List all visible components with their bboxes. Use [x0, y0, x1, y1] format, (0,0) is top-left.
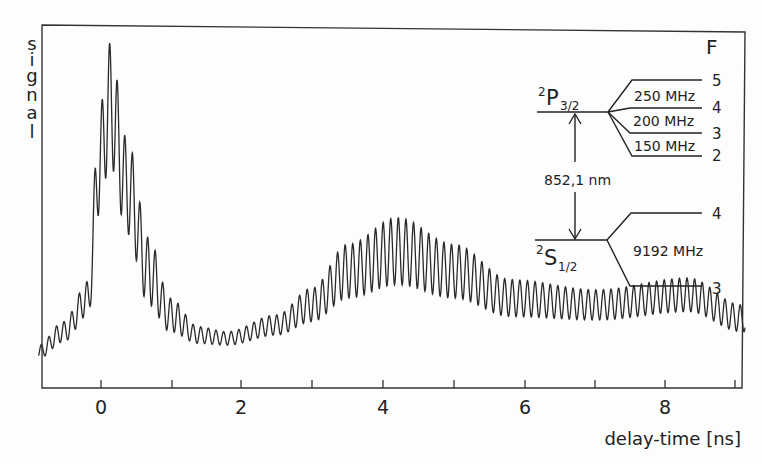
x-axis-label: delay-time [ns]: [604, 428, 741, 449]
svg-text:g: g: [26, 65, 37, 86]
x-ticks: [101, 380, 735, 388]
wavelength-label: 852,1 nm: [544, 172, 611, 188]
lower-f-4: 4: [712, 205, 722, 223]
svg-text:a: a: [26, 102, 37, 123]
p-state-superscript: 2: [538, 85, 546, 99]
upper-f-4: 4: [712, 99, 722, 117]
split-9192: 9192 MHz: [633, 243, 703, 259]
lower-f-3: 3: [712, 280, 722, 298]
split-150: 150 MHz: [634, 138, 695, 154]
chart-canvas: 0 2 4 6 8 delay-time [ns] s i g n a l F: [0, 0, 763, 464]
upper-f-3: 3: [712, 125, 722, 143]
upper-f-2: 2: [712, 147, 722, 165]
s-state-subscript: 1/2: [558, 260, 577, 274]
level-diagram-labels: F 2 P 3/2 5 4 3 2 250 MHz 200 MHz 150 MH…: [536, 35, 722, 298]
x-tick-label-4: 4: [377, 396, 389, 418]
svg-text:l: l: [29, 121, 34, 142]
y-axis-label: s i g n a l: [26, 33, 37, 142]
upper-f-5: 5: [712, 72, 722, 90]
p-state-main: P: [546, 86, 559, 110]
x-tick-label-6: 6: [519, 396, 531, 418]
s-state-main: S: [544, 246, 557, 270]
x-tick-labels: 0 2 4 6 8: [95, 396, 671, 418]
x-tick-label-2: 2: [235, 396, 247, 418]
s-state-superscript: 2: [536, 243, 544, 257]
f-header: F: [706, 35, 718, 59]
split-250: 250 MHz: [634, 88, 695, 104]
x-tick-label-8: 8: [659, 396, 671, 418]
split-200: 200 MHz: [633, 113, 694, 129]
p-state-subscript: 3/2: [560, 99, 579, 113]
x-tick-label-0: 0: [95, 396, 107, 418]
